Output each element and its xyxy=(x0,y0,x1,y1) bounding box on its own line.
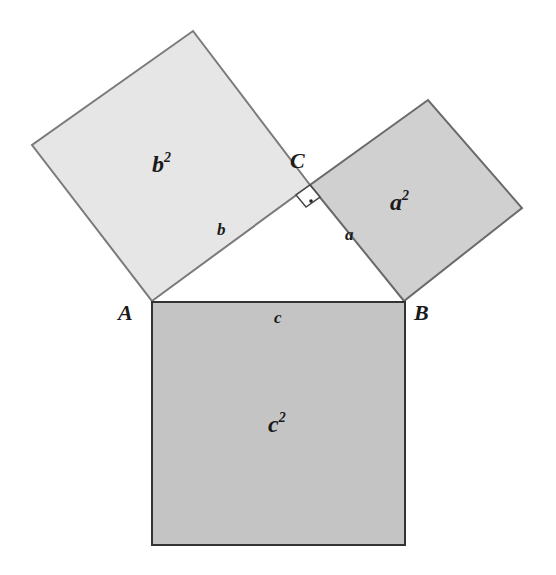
area-b-base: b xyxy=(152,151,164,177)
vertex-label-b: B xyxy=(413,300,429,325)
side-label-a: a xyxy=(345,225,354,244)
vertex-label-c: C xyxy=(290,148,305,173)
side-label-b: b xyxy=(217,220,226,239)
area-c-base: c xyxy=(268,411,279,437)
square-a xyxy=(310,100,522,301)
square-b xyxy=(32,31,310,301)
pythagorean-diagram: A B C b a c b2 a2 c2 xyxy=(0,0,556,575)
right-angle-dot xyxy=(309,199,313,203)
area-b-exp: 2 xyxy=(163,150,171,165)
vertex-label-a: A xyxy=(116,300,133,325)
area-a-exp: 2 xyxy=(401,188,409,203)
side-label-c: c xyxy=(274,308,282,327)
area-c-exp: 2 xyxy=(278,410,286,425)
area-a-base: a xyxy=(390,189,402,215)
